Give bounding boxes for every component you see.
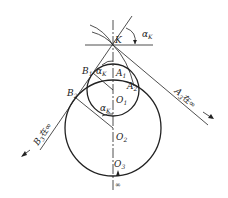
label-b2: B2: [66, 88, 78, 99]
label-o3: O3: [114, 159, 125, 170]
label-alpha-top: αK: [142, 29, 153, 40]
label-k: K: [114, 35, 123, 45]
involute-curve-2: [92, 32, 113, 45]
angle-arrowhead-icon: [133, 40, 137, 44]
label-a1: A1: [115, 68, 126, 79]
label-infinity: ∞: [115, 181, 121, 189]
diagram-canvas: K αK B1 αK A1 A2 B2 O1 αK O2 O3 ∞ A3在∞ B…: [0, 0, 228, 198]
label-alpha-low: αK: [100, 103, 111, 114]
label-b1: B1: [81, 66, 92, 77]
involute-curve-1: [90, 25, 113, 45]
involute-diagram: K αK B1 αK A1 A2 B2 O1 αK O2 O3 ∞ A3在∞ B…: [0, 0, 228, 198]
label-a2: A2: [126, 81, 138, 92]
label-o1: O1: [116, 95, 127, 106]
label-o2: O2: [116, 132, 127, 143]
arrow-right-icon: [208, 114, 214, 119]
arrow-down-icon: [116, 170, 120, 176]
arrow-left-icon: [21, 151, 27, 157]
label-alpha-mid: αK: [96, 66, 107, 77]
